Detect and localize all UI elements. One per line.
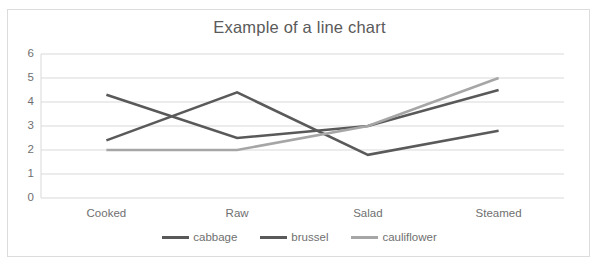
legend-label: cabbage [193,232,237,244]
x-axis-tick-label: Cooked [61,208,151,220]
y-axis-tick-label: 5 [12,72,34,84]
series-line-cabbage[interactable] [106,90,498,138]
legend-swatch-icon [351,236,378,239]
x-axis-tick-label: Steamed [454,208,544,220]
chart-container: Example of a line chart 0123456 CookedRa… [7,9,590,257]
x-axis-tick-label: Raw [192,208,282,220]
legend-entry-brussel[interactable]: brussel [260,232,328,244]
y-axis-tick-label: 1 [12,168,34,180]
y-axis-tick-label: 4 [12,96,34,108]
legend-label: brussel [291,232,328,244]
y-axis-tick-label: 2 [12,144,34,156]
y-axis-tick-label: 0 [12,192,34,204]
chart-legend: cabbagebrusselcauliflower [8,232,591,244]
y-axis-tick-label: 3 [12,120,34,132]
chart-canvas [8,10,591,258]
legend-swatch-icon [260,236,287,239]
legend-swatch-icon [162,236,189,239]
legend-label: cauliflower [382,232,436,244]
legend-entry-cauliflower[interactable]: cauliflower [351,232,436,244]
plot-area [8,10,591,258]
y-axis-tick-label: 6 [12,48,34,60]
legend-entry-cabbage[interactable]: cabbage [162,232,237,244]
x-axis-tick-label: Salad [323,208,413,220]
